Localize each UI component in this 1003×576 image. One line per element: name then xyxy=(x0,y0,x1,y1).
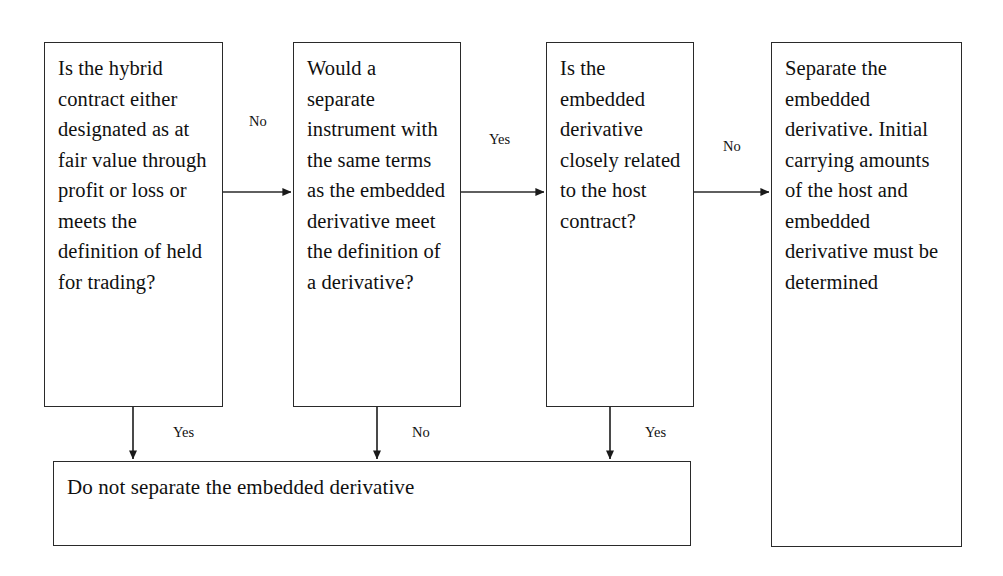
flowchart-node-q1-label: Is the hybrid contract either designated… xyxy=(58,53,210,297)
flowchart-node-q1[interactable]: Is the hybrid contract either designated… xyxy=(44,42,223,407)
flowchart-canvas: Is the hybrid contract either designated… xyxy=(0,0,1003,576)
edge-label-q2-to-q3: Yes xyxy=(489,131,510,147)
flowchart-node-q3[interactable]: Is the embedded derivative closely relat… xyxy=(546,42,694,407)
edge-label-q1-to-a2: Yes xyxy=(173,424,194,440)
flowchart-node-separate-derivative[interactable]: Separate the embedded derivative. Initia… xyxy=(771,42,962,547)
flowchart-node-q2-label: Would a separate instrument with the sam… xyxy=(307,53,448,297)
edge-label-q2-to-a2: No xyxy=(412,424,430,440)
flowchart-node-separate-derivative-label: Separate the embedded derivative. Initia… xyxy=(785,53,949,297)
flowchart-node-q2[interactable]: Would a separate instrument with the sam… xyxy=(293,42,461,407)
edge-label-q3-to-a2: Yes xyxy=(645,424,666,440)
flowchart-node-q3-label: Is the embedded derivative closely relat… xyxy=(560,53,681,236)
edge-label-q3-to-a1: No xyxy=(723,138,741,154)
flowchart-node-do-not-separate-label: Do not separate the embedded derivative xyxy=(67,472,678,502)
edge-label-q1-to-q2: No xyxy=(249,113,267,129)
flowchart-node-do-not-separate[interactable]: Do not separate the embedded derivative xyxy=(53,461,691,546)
